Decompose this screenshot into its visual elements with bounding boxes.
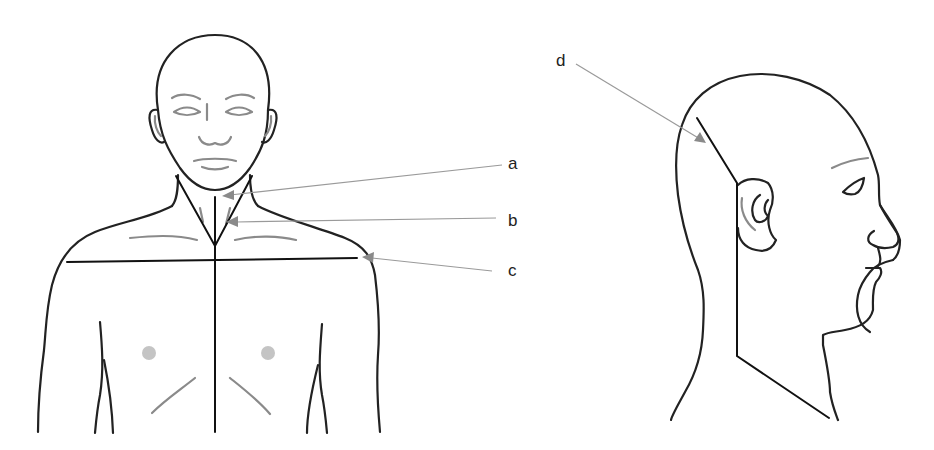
left-arm-inner-line-2 <box>104 360 113 433</box>
profile-face <box>868 205 898 248</box>
label-d: d <box>556 52 565 69</box>
label-b: b <box>508 212 517 229</box>
right-eye <box>226 108 252 116</box>
shoulder-horizontal-guide <box>67 258 357 262</box>
mouth <box>194 159 236 170</box>
right-clavicle <box>235 237 296 240</box>
right-rib-line <box>230 378 270 414</box>
left-shoulder-torso-outline <box>38 206 172 432</box>
leader-d <box>576 64 700 139</box>
profile-head-back-outline <box>857 260 893 332</box>
leader-a <box>230 165 502 195</box>
side-profile-view <box>671 74 900 420</box>
leader-b <box>236 218 496 222</box>
right-arm-inner-line <box>320 324 327 433</box>
right-eyebrow <box>226 95 254 99</box>
left-clavicle <box>130 236 197 240</box>
nose <box>199 104 231 145</box>
left-rib-line <box>152 378 195 413</box>
right-arm-inner-line-2 <box>307 365 318 433</box>
arrowhead-a-icon <box>222 190 234 200</box>
right-shoulder-torso-outline <box>258 206 380 432</box>
profile-ear-concha <box>752 195 768 222</box>
profile-posterior-guide <box>697 118 829 418</box>
profile-eye <box>843 178 864 194</box>
arrowhead-d-icon <box>694 132 706 143</box>
left-eye <box>174 108 200 116</box>
profile-lips-chin <box>823 248 881 420</box>
profile-skull-outline <box>671 74 900 420</box>
label-a: a <box>508 155 517 172</box>
right-nipple <box>261 346 275 360</box>
anatomy-diagram <box>0 0 934 450</box>
front-view <box>38 35 380 433</box>
leader-c <box>372 258 492 271</box>
left-arm-inner-line <box>95 322 102 433</box>
label-c: c <box>508 262 517 279</box>
profile-eyebrow <box>832 158 868 168</box>
left-nipple <box>142 346 156 360</box>
left-eyebrow <box>172 95 200 99</box>
